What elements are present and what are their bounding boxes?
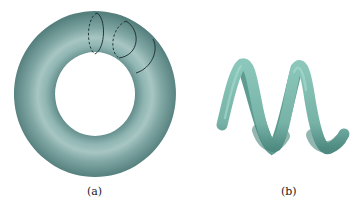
figure-canvas [0, 0, 360, 210]
panel-a-label: (a) [87, 185, 102, 198]
panel-b-label: (b) [281, 185, 297, 198]
torus-shape [14, 11, 176, 177]
helix-panel [222, 64, 344, 149]
helix-tube [222, 64, 344, 149]
torus-panel [14, 11, 176, 177]
